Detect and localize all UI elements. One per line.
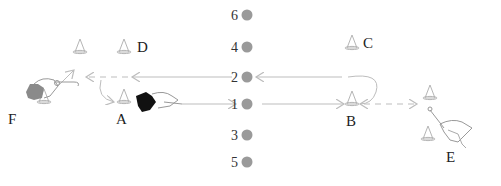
marker-label: 4 <box>231 40 238 55</box>
cone <box>421 126 435 141</box>
marker-4: 4 <box>231 40 253 55</box>
cone-b <box>345 91 359 106</box>
cone-c <box>345 35 359 50</box>
player-e-icon <box>428 107 472 148</box>
cone <box>73 39 87 54</box>
arrow-curve-a <box>100 80 114 102</box>
marker-3: 3 <box>231 128 253 143</box>
marker-label: 5 <box>231 155 238 170</box>
cone <box>423 85 437 100</box>
player-f-icon <box>26 79 79 100</box>
marker-6: 6 <box>231 8 253 23</box>
station-label-b: B <box>346 113 356 129</box>
station-label-a: A <box>116 111 127 127</box>
arrow-f-pass <box>58 70 74 86</box>
marker-label: 6 <box>231 8 238 23</box>
player-a-icon <box>136 92 182 112</box>
station-label-e: E <box>446 149 455 165</box>
marker-label: 3 <box>231 128 238 143</box>
marker-label: 2 <box>231 70 238 85</box>
drill-diagram: 6 4 2 1 3 5 F A B C D <box>0 0 501 186</box>
cone-d <box>117 39 131 54</box>
marker-5: 5 <box>231 155 253 170</box>
station-label-d: D <box>137 39 148 55</box>
marker-1: 1 <box>231 97 253 112</box>
station-label-c: C <box>363 35 373 51</box>
marker-2: 2 <box>231 70 253 85</box>
marker-label: 1 <box>231 97 238 112</box>
station-label-f: F <box>8 111 16 127</box>
cone-a <box>117 89 131 104</box>
arrow-curve-b <box>348 76 377 104</box>
